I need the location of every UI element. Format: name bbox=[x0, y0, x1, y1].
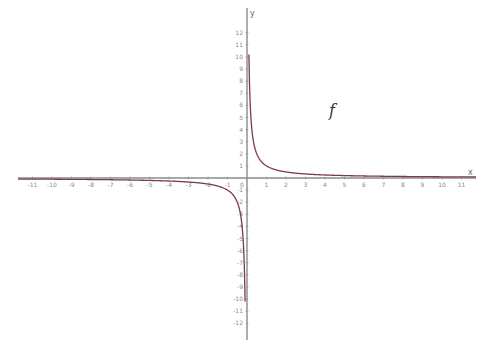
axes bbox=[18, 8, 476, 340]
y-tick-label: 2 bbox=[239, 150, 243, 157]
x-tick-label: 6 bbox=[362, 181, 366, 188]
x-tick-label: -10 bbox=[47, 181, 57, 188]
y-tick-label: 1 bbox=[239, 162, 243, 169]
x-tick-label: 8 bbox=[401, 181, 405, 188]
y-tick-label: -10 bbox=[233, 295, 243, 302]
y-tick-label: 6 bbox=[239, 101, 243, 108]
curve-branch-positive bbox=[249, 55, 476, 177]
x-tick-label: 7 bbox=[382, 181, 386, 188]
function-plot: -11-10-9-8-7-6-5-4-3-2-101234567891011-1… bbox=[0, 0, 492, 356]
x-axis-label: x bbox=[468, 168, 473, 177]
y-tick-label: 11 bbox=[235, 41, 243, 48]
y-tick-label: 8 bbox=[239, 77, 243, 84]
x-tick-label: -4 bbox=[166, 181, 172, 188]
x-tick-label: -5 bbox=[147, 181, 153, 188]
y-tick-label: -12 bbox=[233, 319, 243, 326]
x-tick-label: -6 bbox=[127, 181, 133, 188]
y-tick-label: -9 bbox=[237, 283, 243, 290]
x-tick-label: 2 bbox=[284, 181, 288, 188]
x-tick-label: 4 bbox=[323, 181, 327, 188]
x-tick-label: -11 bbox=[28, 181, 38, 188]
y-tick-label: 10 bbox=[235, 53, 243, 60]
x-tick-label: 10 bbox=[438, 181, 446, 188]
y-tick-label: -6 bbox=[237, 247, 243, 254]
x-tick-label: 9 bbox=[421, 181, 425, 188]
y-tick-label: 5 bbox=[239, 114, 243, 121]
x-tick-label: -9 bbox=[69, 181, 75, 188]
function-label: f bbox=[328, 101, 338, 120]
x-tick-label: -7 bbox=[108, 181, 114, 188]
x-tick-label: 5 bbox=[343, 181, 347, 188]
x-tick-label: 11 bbox=[458, 181, 466, 188]
y-tick-label: 4 bbox=[239, 126, 243, 133]
y-tick-label: 3 bbox=[239, 138, 243, 145]
y-tick-label: -7 bbox=[237, 259, 243, 266]
x-tick-label: -8 bbox=[88, 181, 94, 188]
y-tick-label: -11 bbox=[233, 307, 243, 314]
y-tick-label: -1 bbox=[237, 186, 243, 193]
x-tick-label: 3 bbox=[304, 181, 308, 188]
y-tick-label: 12 bbox=[235, 29, 243, 36]
x-tick-label: 1 bbox=[265, 181, 269, 188]
x-tick-label: -1 bbox=[225, 181, 231, 188]
y-tick-label: -8 bbox=[237, 271, 243, 278]
y-axis-label: y bbox=[250, 9, 255, 18]
y-tick-label: 7 bbox=[239, 89, 243, 96]
y-tick-label: 9 bbox=[239, 65, 243, 72]
curve-branch-negative bbox=[18, 179, 245, 301]
